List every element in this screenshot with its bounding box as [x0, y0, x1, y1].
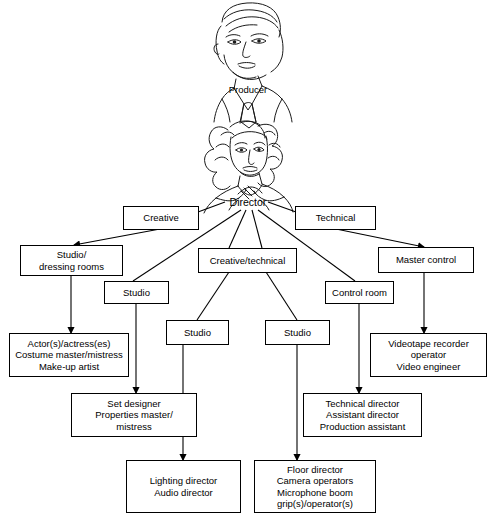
node-studio-c[interactable]: Studio — [265, 320, 330, 345]
node-creative[interactable]: Creative — [123, 206, 199, 230]
node-technical-roles[interactable]: Technical director Assistant director Pr… — [303, 393, 422, 437]
node-videotape-roles[interactable]: Videotape recorder operator Video engine… — [370, 333, 487, 377]
node-design-roles[interactable]: Set designer Properties master/ mistress — [71, 393, 197, 437]
node-director-label[interactable]: Director — [216, 195, 280, 209]
organizational-chart: Producer — [0, 0, 496, 530]
node-technical[interactable]: Technical — [295, 206, 376, 230]
node-studio-a[interactable]: Studio — [104, 281, 169, 304]
node-lighting-roles[interactable]: Lighting director Audio director — [126, 460, 241, 513]
node-master-control[interactable]: Master control — [378, 247, 474, 273]
node-studio-dressing-rooms[interactable]: Studio/ dressing rooms — [20, 245, 123, 276]
node-creative-technical[interactable]: Creative/technical — [198, 248, 297, 273]
node-studio-b[interactable]: Studio — [166, 320, 229, 345]
node-control-room[interactable]: Control room — [325, 281, 394, 304]
node-floor-roles[interactable]: Floor director Camera operators Micropho… — [254, 460, 376, 513]
node-talent-roles[interactable]: Actor(s)/actress(es) Costume master/mist… — [9, 333, 129, 377]
